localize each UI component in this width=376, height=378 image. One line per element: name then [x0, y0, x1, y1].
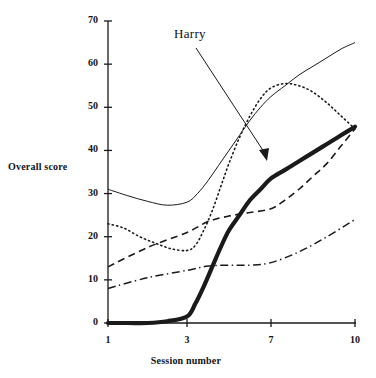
- data-series-group: [108, 43, 355, 324]
- y-tick-label: 70: [72, 14, 98, 25]
- harry-arrow-line: [196, 48, 266, 155]
- harry-arrow-head: [259, 148, 269, 161]
- plot-area: [0, 0, 376, 378]
- annotation-arrow-group: [196, 48, 269, 161]
- x-tick-label: 7: [260, 334, 282, 345]
- x-tick-label: 1: [97, 334, 119, 345]
- y-tick-label: 10: [72, 273, 98, 284]
- x-axis-title: Session number: [151, 355, 221, 366]
- axes: [104, 21, 356, 327]
- y-tick-label: 20: [72, 230, 98, 241]
- series-line-series-thin-solid: [108, 43, 355, 206]
- y-tick-label: 60: [72, 57, 98, 68]
- y-tick-label: 50: [72, 100, 98, 111]
- y-axis-title: Overall score: [8, 161, 67, 172]
- x-tick-label: 10: [344, 334, 366, 345]
- annotation-label-harry: Harry: [174, 26, 206, 42]
- y-tick-label: 30: [72, 187, 98, 198]
- y-tick-label: 40: [72, 143, 98, 154]
- x-tick-label: 3: [176, 334, 198, 345]
- y-tick-label: 0: [72, 316, 98, 327]
- chart-figure: Overall score Session number Harry 01020…: [0, 0, 376, 378]
